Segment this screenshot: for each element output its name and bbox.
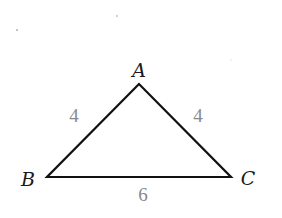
- vertex-label-c: C: [241, 167, 256, 189]
- speck: [16, 29, 18, 31]
- side-label-ab: 4: [69, 105, 79, 126]
- triangle-diagram: A B C 4 4 6: [0, 0, 282, 218]
- speck: [231, 60, 232, 61]
- triangle-abc: [47, 84, 231, 177]
- speck: [116, 15, 118, 17]
- side-label-ac: 4: [193, 105, 203, 126]
- side-label-bc: 6: [138, 184, 148, 205]
- vertex-label-b: B: [20, 168, 35, 190]
- vertex-label-a: A: [130, 59, 146, 81]
